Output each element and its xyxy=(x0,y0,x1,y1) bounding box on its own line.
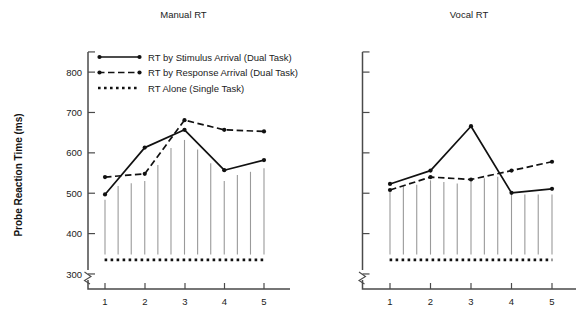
data-point-marker xyxy=(509,169,513,173)
data-point-marker xyxy=(428,169,432,173)
data-point-marker xyxy=(222,128,226,132)
x-axis-line-0 xyxy=(88,280,290,289)
data-point-marker xyxy=(182,118,186,122)
data-point-marker xyxy=(388,182,392,186)
x-tick-label-2-1: 2 xyxy=(428,296,433,307)
y-tick-label-600: 600 xyxy=(66,147,82,158)
data-point-marker xyxy=(262,158,266,162)
data-point-marker xyxy=(550,187,554,191)
legend-label-alone: RT Alone (Single Task) xyxy=(148,83,244,94)
x-tick-label-5-1: 5 xyxy=(549,296,554,307)
x-tick-label-1-1: 1 xyxy=(387,296,392,307)
legend: RT by Stimulus Arrival (Dual Task)RT by … xyxy=(97,52,298,94)
data-point-marker xyxy=(550,160,554,164)
data-point-marker xyxy=(143,146,147,150)
y-tick-label-700: 700 xyxy=(66,107,82,118)
data-point-marker xyxy=(103,175,107,179)
plot-panel-vocal: 12345 xyxy=(359,52,576,307)
x-tick-label-2-0: 2 xyxy=(142,296,147,307)
legend-item-stimulus: RT by Stimulus Arrival (Dual Task) xyxy=(97,52,291,63)
data-point-marker xyxy=(182,128,186,132)
x-tick-label-3-1: 3 xyxy=(468,296,473,307)
figure-root: Manual RTVocal RTProbe Reaction Time (ms… xyxy=(0,0,584,326)
y-tick-label-300: 300 xyxy=(66,269,82,280)
panel-title-vocal: Vocal RT xyxy=(450,9,489,20)
x-tick-label-3-0: 3 xyxy=(182,296,187,307)
data-point-marker xyxy=(469,177,473,181)
y-axis-label: Probe Reaction Time (ms) xyxy=(13,113,24,236)
legend-label-stimulus: RT by Stimulus Arrival (Dual Task) xyxy=(148,52,292,63)
chart-canvas: Manual RTVocal RTProbe Reaction Time (ms… xyxy=(0,0,584,326)
y-tick-label-800: 800 xyxy=(66,67,82,78)
data-point-marker xyxy=(469,124,473,128)
y-tick-label-500: 500 xyxy=(66,188,82,199)
x-tick-label-4-0: 4 xyxy=(222,296,227,307)
data-point-marker xyxy=(262,129,266,133)
data-point-marker xyxy=(388,188,392,192)
legend-label-response: RT by Response Arrival (Dual Task) xyxy=(148,67,298,78)
y-tick-label-400: 400 xyxy=(66,228,82,239)
x-tick-label-5-0: 5 xyxy=(261,296,266,307)
legend-marker xyxy=(137,55,141,59)
data-point-marker xyxy=(222,168,226,172)
legend-item-alone: RT Alone (Single Task) xyxy=(98,83,244,94)
legend-marker xyxy=(97,55,101,59)
data-point-marker xyxy=(143,172,147,176)
x-axis-line-1 xyxy=(363,280,577,289)
x-tick-label-4-1: 4 xyxy=(509,296,514,307)
data-point-marker xyxy=(509,191,513,195)
legend-marker xyxy=(97,70,101,74)
data-point-marker xyxy=(428,175,432,179)
data-point-marker xyxy=(103,192,107,196)
panel-title-manual: Manual RT xyxy=(160,9,206,20)
legend-marker xyxy=(137,70,141,74)
x-tick-label-1-0: 1 xyxy=(102,296,107,307)
legend-item-response: RT by Response Arrival (Dual Task) xyxy=(97,67,298,78)
